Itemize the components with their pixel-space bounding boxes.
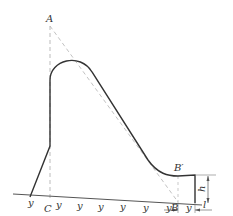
label-b-prime: B′ [173, 162, 184, 173]
svg-text:y: y [185, 202, 192, 213]
svg-text:y: y [76, 200, 83, 211]
diagram-canvas: y y y y y y y y A C B B′ h l [0, 0, 233, 216]
label-l: l [203, 199, 206, 210]
svg-text:y: y [142, 202, 149, 213]
svg-text:y: y [97, 201, 104, 212]
svg-text:y: y [119, 201, 126, 212]
label-h: h [196, 186, 207, 192]
profile-curve [30, 60, 195, 203]
construction-line-a-to-b [50, 26, 178, 202]
svg-text:y: y [55, 199, 62, 210]
label-a: A [45, 13, 53, 24]
label-b: B [170, 202, 178, 213]
svg-text:y: y [27, 197, 34, 208]
label-c: C [44, 203, 52, 214]
